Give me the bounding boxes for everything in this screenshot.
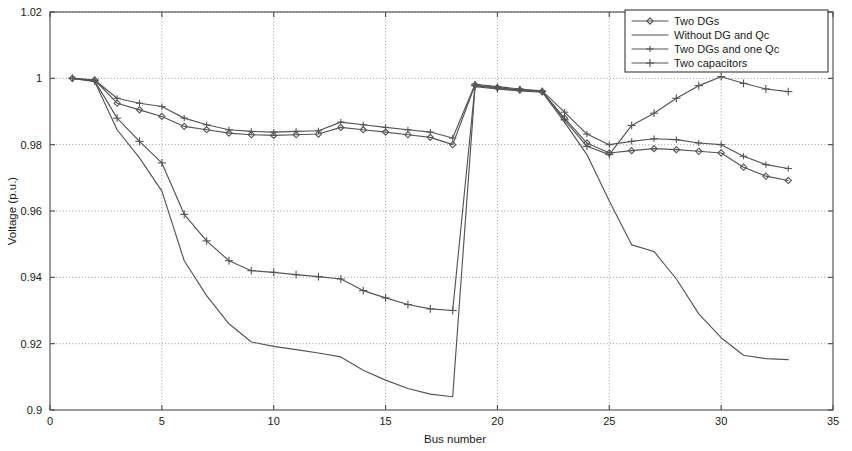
series-1 <box>72 78 788 396</box>
legend-label-1: Without DG and Qc <box>674 29 770 41</box>
x-tick-label: 20 <box>491 415 503 427</box>
y-axis-title: Voltage (p.u.) <box>6 177 18 246</box>
voltage-profile-chart: 05101520253035 0.90.920.940.960.9811.02 … <box>0 0 852 451</box>
x-tick-label: 35 <box>827 415 839 427</box>
legend-label-2: Two DGs and one Qc <box>674 43 780 55</box>
x-tick-label: 15 <box>379 415 391 427</box>
x-axis-title: Bus number <box>424 433 486 445</box>
series-3 <box>68 73 792 315</box>
series-line <box>72 77 788 311</box>
x-tick-label: 10 <box>268 415 280 427</box>
y-tick-label: 1.02 <box>21 6 42 18</box>
y-tick-label: 0.98 <box>21 139 42 151</box>
series-line <box>72 78 788 396</box>
series-line <box>72 78 788 168</box>
x-axis-tick-labels: 05101520253035 <box>47 415 839 427</box>
chart-canvas: 05101520253035 0.90.920.940.960.9811.02 … <box>0 0 852 451</box>
y-tick-label: 1 <box>36 72 42 84</box>
y-tick-label: 0.94 <box>21 271 42 283</box>
x-tick-label: 25 <box>603 415 615 427</box>
y-tick-label: 0.96 <box>21 205 42 217</box>
y-tick-label: 0.9 <box>27 404 42 416</box>
y-axis-tick-labels: 0.90.920.940.960.9811.02 <box>21 6 42 416</box>
x-tick-label: 0 <box>47 415 53 427</box>
legend: Two DGsWithout DG and QcTwo DGs and one … <box>625 10 828 72</box>
x-tick-label: 30 <box>715 415 727 427</box>
y-tick-label: 0.92 <box>21 338 42 350</box>
legend-label-0: Two DGs <box>674 15 720 27</box>
legend-label-3: Two capacitors <box>674 57 748 69</box>
x-tick-label: 5 <box>159 415 165 427</box>
data-series-group <box>68 73 792 397</box>
